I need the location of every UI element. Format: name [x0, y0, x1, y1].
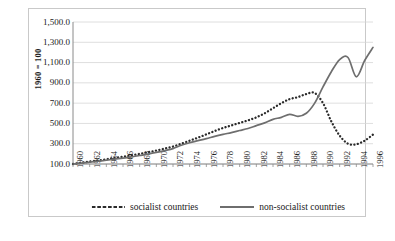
x-axis-tick-label: 1984: [276, 151, 285, 168]
x-axis-tick-label: 1990: [326, 151, 335, 168]
x-axis-tick-label: 1988: [310, 151, 319, 168]
x-axis-tick-label: 1970: [160, 151, 169, 168]
figure-caption: [6, 231, 336, 241]
x-axis-tick-label: 1986: [293, 151, 302, 168]
x-axis-tick-label: 1996: [376, 151, 385, 168]
legend-item-non-socialist: non-socialist countries: [220, 202, 345, 212]
x-axis-tick-label: 1980: [243, 151, 252, 168]
x-axis-tick-label: 1966: [126, 151, 135, 168]
chart-legend: socialist countries non-socialist countr…: [73, 200, 363, 214]
x-axis-tick-label: 1994: [360, 151, 369, 168]
legend-item-socialist: socialist countries: [91, 202, 198, 212]
x-axis-tick-label: 1976: [210, 151, 219, 168]
x-axis-tick-label: 1972: [176, 151, 185, 168]
dotted-line-marker-icon: [91, 203, 125, 211]
x-axis-tick-label: 1982: [260, 151, 269, 168]
x-axis-tick-label: 1962: [93, 151, 102, 168]
x-axis-tick-label: 1974: [193, 151, 202, 168]
x-axis-tick-label: 1964: [110, 151, 119, 168]
x-axis-tick-label: 1978: [226, 151, 235, 168]
x-axis-tick-label: 1992: [343, 151, 352, 168]
figure-container: 1960 = 100 1,500.01,300.01,100.0900.0700…: [0, 0, 395, 241]
solid-line-marker-icon: [220, 203, 254, 211]
legend-label-socialist: socialist countries: [130, 202, 198, 212]
legend-label-non-socialist: non-socialist countries: [259, 202, 345, 212]
x-axis-tick-label: 1968: [143, 151, 152, 168]
x-axis-tick-label: 1960: [76, 151, 85, 168]
